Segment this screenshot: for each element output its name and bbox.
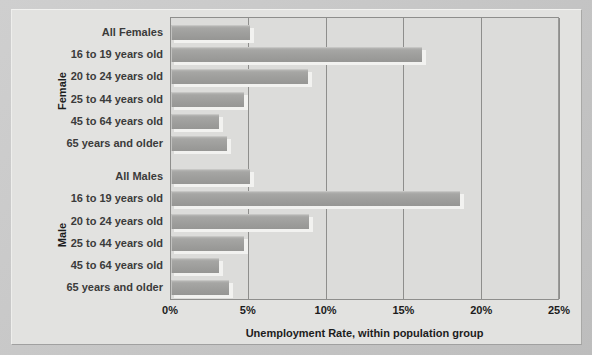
category-label: 16 to 19 years old — [13, 192, 163, 204]
bar[interactable] — [171, 169, 250, 184]
bar-highlight-bottom — [174, 40, 254, 43]
bar-highlight-bottom — [174, 273, 223, 276]
bar[interactable] — [171, 47, 422, 62]
chart-canvas: Female Male All Females16 to 19 years ol… — [11, 9, 582, 345]
x-tick-label: 10% — [315, 304, 337, 316]
bar[interactable] — [171, 92, 244, 107]
bar-highlight-bottom — [174, 184, 254, 187]
bar[interactable] — [171, 214, 309, 229]
x-tick-label: 0% — [162, 304, 178, 316]
category-label: 65 years and older — [13, 137, 163, 149]
bar[interactable] — [171, 191, 460, 206]
bar[interactable] — [171, 114, 219, 129]
bar-highlight-bottom — [174, 129, 223, 132]
bar[interactable] — [171, 258, 219, 273]
x-tick-label: 5% — [240, 304, 256, 316]
x-tick-label: 15% — [392, 304, 414, 316]
category-axis-labels: All Females16 to 19 years old20 to 24 ye… — [12, 17, 163, 300]
bar-highlight-bottom — [174, 251, 248, 254]
bar-highlight-bottom — [174, 206, 464, 209]
category-label: 25 to 44 years old — [13, 93, 163, 105]
category-label: 20 to 24 years old — [13, 215, 163, 227]
gridline — [481, 18, 482, 299]
bar[interactable] — [171, 69, 308, 84]
bar-highlight-bottom — [174, 229, 313, 232]
bar-highlight-bottom — [174, 84, 312, 87]
category-label: All Females — [13, 26, 163, 38]
bar-highlight-bottom — [174, 107, 248, 110]
bar-highlight-bottom — [174, 62, 426, 65]
bar[interactable] — [171, 25, 250, 40]
category-label: 20 to 24 years old — [13, 70, 163, 82]
gridline — [559, 18, 560, 299]
x-tick-label: 25% — [548, 304, 570, 316]
bar[interactable] — [171, 136, 227, 151]
bar-highlight-bottom — [174, 295, 233, 298]
plot-area — [170, 17, 559, 300]
category-label: 16 to 19 years old — [13, 48, 163, 60]
x-axis-title: Unemployment Rate, within population gro… — [170, 327, 559, 339]
category-label: All Males — [13, 170, 163, 182]
bar-highlight-bottom — [174, 151, 231, 154]
bar[interactable] — [171, 280, 229, 295]
chart-frame: Female Male All Females16 to 19 years ol… — [0, 0, 592, 355]
category-label: 45 to 64 years old — [13, 115, 163, 127]
category-label: 65 years and older — [13, 281, 163, 293]
category-label: 25 to 44 years old — [13, 237, 163, 249]
bar[interactable] — [171, 236, 244, 251]
category-label: 45 to 64 years old — [13, 259, 163, 271]
x-tick-label: 20% — [470, 304, 492, 316]
